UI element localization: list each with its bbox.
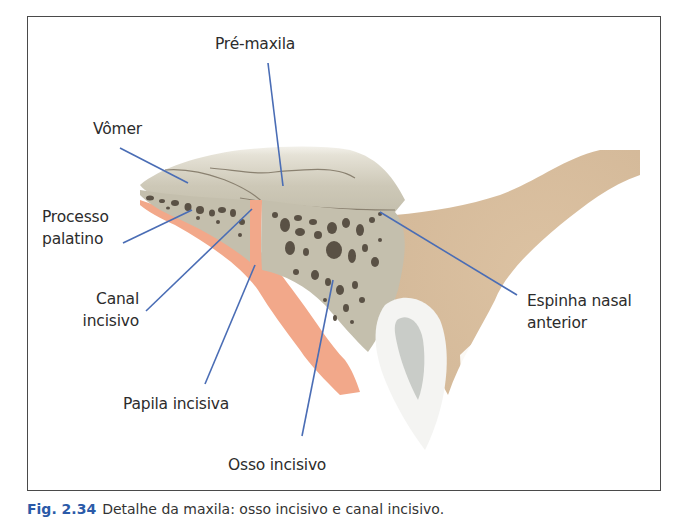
- figure-caption: Fig. 2.34Detalhe da maxila: osso incisiv…: [27, 500, 444, 518]
- label-canal-incisivo-line2: incisivo: [75, 310, 139, 332]
- label-canal-incisivo-line1: Canal: [75, 288, 139, 310]
- caption-text: Detalhe da maxila: osso incisivo e canal…: [102, 501, 444, 517]
- incisor-tooth: [376, 298, 447, 450]
- label-papila-incisiva: Papila incisiva: [123, 393, 229, 415]
- label-espinha-nasal-line1: Espinha nasal: [527, 290, 632, 312]
- label-espinha-nasal-line2: anterior: [527, 312, 587, 334]
- figure-number: Fig. 2.34: [27, 501, 96, 517]
- label-processo-palatino-line2: palatino: [42, 228, 103, 250]
- label-processo-palatino-line1: Processo: [42, 206, 109, 228]
- label-osso-incisivo: Osso incisivo: [228, 454, 326, 476]
- leader-papila-incisiva: [205, 265, 255, 384]
- label-vomer: Vômer: [93, 118, 142, 140]
- label-pre-maxila: Pré-maxila: [215, 33, 295, 55]
